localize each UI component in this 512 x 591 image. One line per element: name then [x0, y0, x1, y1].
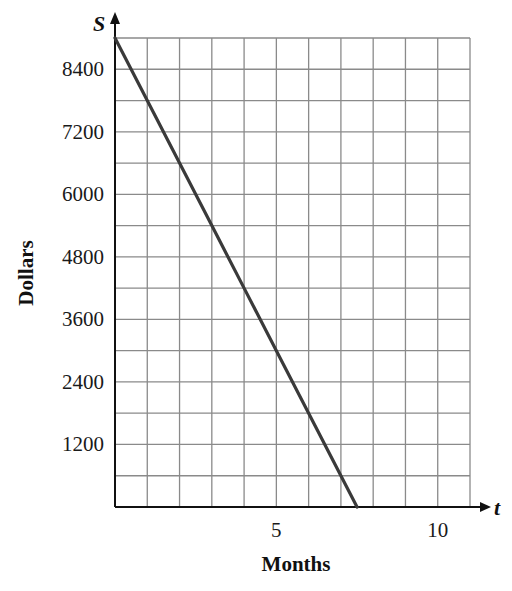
y-tick-label: 2400 [62, 370, 104, 394]
y-axis-title: Dollars [14, 240, 38, 305]
x-tick-labels: 510 [271, 518, 448, 542]
y-tick-label: 6000 [62, 182, 104, 206]
series-line [115, 38, 357, 507]
x-axis-title: Months [262, 552, 331, 576]
x-tick-label: 10 [427, 518, 448, 542]
y-tick-label: 3600 [62, 307, 104, 331]
y-tick-label: 4800 [62, 245, 104, 269]
x-axis-arrow-icon [480, 502, 491, 512]
y-axis-variable: S [93, 11, 105, 36]
axes [110, 12, 491, 512]
x-axis-variable: t [494, 495, 501, 520]
x-tick-label: 5 [271, 518, 282, 542]
y-tick-label: 8400 [62, 57, 104, 81]
data-series [115, 38, 357, 507]
y-axis-arrow-icon [110, 12, 120, 24]
y-tick-label: 7200 [62, 120, 104, 144]
grid [115, 38, 470, 507]
y-tick-labels: 1200240036004800600072008400 [62, 57, 104, 456]
y-tick-label: 1200 [62, 432, 104, 456]
line-chart: 1200240036004800600072008400 510 Dollars… [0, 0, 512, 591]
